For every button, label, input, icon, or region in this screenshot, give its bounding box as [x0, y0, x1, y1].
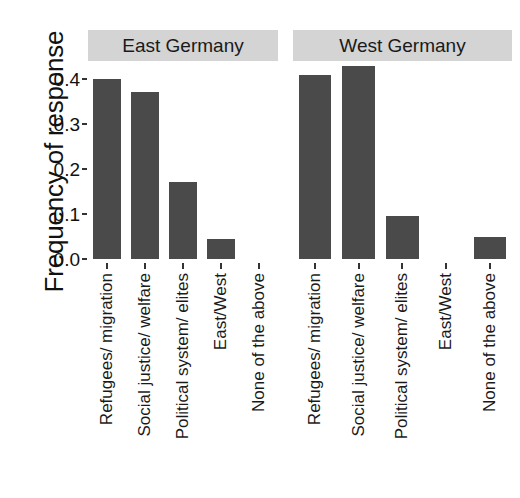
x-axis-slot: Political system/ elites [164, 259, 202, 498]
x-axis-slots-east: Refugees/ migrationSocial justice/ welfa… [88, 259, 278, 498]
x-axis-slot: East/West [202, 259, 240, 498]
x-tick-label: Refugees/ migration [305, 273, 325, 425]
bar-slot [202, 61, 240, 259]
y-tick-mark [82, 123, 87, 125]
x-tick-mark [144, 263, 146, 269]
x-tick-label: East/West [211, 273, 231, 350]
x-tick-mark [220, 263, 222, 269]
panel-strip-label-east: East Germany [122, 35, 243, 57]
y-tick-mark [82, 78, 87, 80]
bar[interactable] [299, 75, 331, 259]
x-tick-label: Social justice/ welfare [135, 273, 155, 436]
bar-slot [88, 61, 126, 259]
plot-area-east [88, 61, 278, 259]
x-axis-slot: Social justice/ welfare [337, 259, 381, 498]
x-tick-mark [445, 263, 447, 269]
bar-slot [164, 61, 202, 259]
bar[interactable] [342, 66, 374, 259]
bar-slot [424, 61, 468, 259]
x-tick-label: Political system/ elites [173, 273, 193, 439]
x-tick-label: East/West [436, 273, 456, 350]
bar[interactable] [207, 239, 235, 259]
x-axis-slot: None of the above [468, 259, 512, 498]
x-tick-mark [182, 263, 184, 269]
panel-strip-label-west: West Germany [339, 35, 465, 57]
y-tick-mark [82, 168, 87, 170]
x-tick-label: Social justice/ welfare [349, 273, 369, 436]
y-tick-label: 0.4 [54, 70, 80, 89]
x-axis-slot: Political system/ elites [381, 259, 425, 498]
bar-slot [468, 61, 512, 259]
x-tick-mark [106, 263, 108, 269]
panel-strip-east: East Germany [88, 30, 278, 61]
x-tick-mark [258, 263, 260, 269]
y-tick-label: 0.0 [54, 250, 80, 269]
x-axis-slot: Refugees/ migration [88, 259, 126, 498]
x-tick-label: None of the above [249, 273, 269, 412]
bar-slot [126, 61, 164, 259]
x-axis-east: Refugees/ migrationSocial justice/ welfa… [88, 259, 278, 498]
x-tick-label: Political system/ elites [392, 273, 412, 439]
x-axis-slot: None of the above [240, 259, 278, 498]
y-axis-ticks: 0.00.10.20.30.4 [22, 0, 88, 498]
x-axis-slot: East/West [424, 259, 468, 498]
y-tick-label: 0.1 [54, 205, 80, 224]
x-tick-mark [401, 263, 403, 269]
x-axis-slots-west: Refugees/ migrationSocial justice/ welfa… [293, 259, 512, 498]
y-tick-mark [82, 258, 87, 260]
panel-strip-west: West Germany [293, 30, 512, 61]
y-tick-label: 0.3 [54, 115, 80, 134]
bar-slot [293, 61, 337, 259]
bar-group-west [293, 61, 512, 259]
x-tick-label: None of the above [480, 273, 500, 412]
x-axis-slot: Social justice/ welfare [126, 259, 164, 498]
bar-slot [381, 61, 425, 259]
bar-slot [240, 61, 278, 259]
bar[interactable] [131, 92, 159, 259]
bar[interactable] [169, 182, 197, 259]
x-tick-mark [489, 263, 491, 269]
plot-area-west [293, 61, 512, 259]
bar[interactable] [386, 216, 418, 259]
x-axis-west: Refugees/ migrationSocial justice/ welfa… [293, 259, 512, 498]
y-tick-mark [82, 213, 87, 215]
x-tick-mark [314, 263, 316, 269]
bar-group-east [88, 61, 278, 259]
x-axis-slot: Refugees/ migration [293, 259, 337, 498]
chart-figure: Frequency of response 0.00.10.20.30.4 Ea… [0, 0, 520, 498]
bar[interactable] [474, 237, 506, 260]
y-tick-label: 0.2 [54, 160, 80, 179]
bar[interactable] [93, 79, 121, 259]
x-tick-label: Refugees/ migration [97, 273, 117, 425]
bar-slot [337, 61, 381, 259]
x-tick-mark [358, 263, 360, 269]
